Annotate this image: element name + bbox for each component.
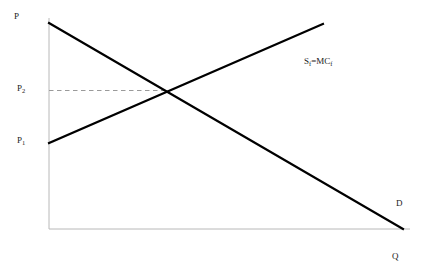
demand-curve (49, 23, 403, 229)
tick-label-p1: P1 (17, 136, 25, 145)
tick-label-p2: P2 (17, 84, 25, 93)
supply-curve-label: Sf=MCf (304, 57, 332, 66)
supply-curve (49, 24, 323, 143)
plot-canvas (0, 0, 433, 271)
tick-label-p2-subscript: 2 (22, 87, 25, 94)
demand-curve-label: D (396, 199, 403, 208)
supply-label-subscript-f2: f (330, 60, 332, 67)
y-axis-label: P (14, 12, 19, 21)
tick-label-p1-subscript: 1 (22, 139, 25, 146)
x-axis-label: Q (392, 252, 399, 261)
supply-demand-figure: P P2 P1 Sf=MCf D Q (0, 0, 433, 271)
supply-label-subscript-f1: f (309, 60, 311, 67)
supply-label-equals-mc: =MC (311, 56, 330, 66)
